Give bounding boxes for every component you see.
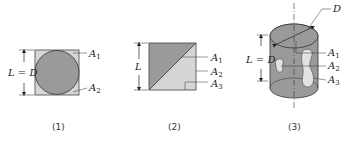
label-a2-fig3: A2 [327,60,340,73]
diagram-canvas: L = D A1 A2 (1) L A1 A2 A3 (2) D [0,0,355,142]
dimension-label-2: L [134,61,142,72]
label-a1-fig1: A1 [88,48,101,61]
leader-d [308,9,331,29]
figure-2: L A1 A2 A3 (2) [134,43,223,132]
label-a1-fig3: A1 [327,47,340,60]
inscribed-circle [35,51,79,95]
caption-2: (2) [168,122,181,132]
label-a3-fig2: A3 [210,78,223,91]
dimension-label-1: L = D [7,67,37,78]
figure-3: D L = D A1 A2 A3 (3) [245,3,341,132]
diameter-label: D [332,3,341,14]
caption-3: (3) [288,122,301,132]
dimension-label-3: L = D [245,54,275,65]
label-a3-fig3: A3 [327,74,340,87]
label-a2-fig1: A2 [88,82,101,95]
label-a1-fig2: A1 [210,52,223,65]
caption-1: (1) [52,122,65,132]
figure-1: L = D A1 A2 (1) [7,48,101,132]
